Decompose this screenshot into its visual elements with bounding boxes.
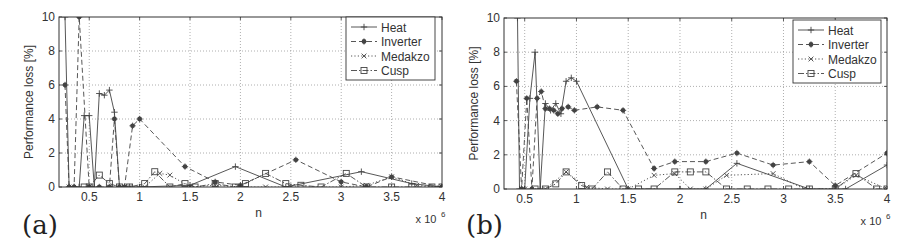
- legend-label: Inverter: [381, 35, 422, 49]
- x-tick-label: 1.5: [182, 190, 199, 204]
- y-tick-label: 8: [48, 44, 55, 58]
- x-tick-label: 2: [677, 192, 684, 206]
- x-multiplier: x 10: [416, 213, 437, 225]
- x-tick-label: 2: [237, 190, 244, 204]
- y-tick-label: 2: [48, 146, 55, 160]
- x-tick-label: 3: [780, 192, 787, 206]
- x-tick-label: 3: [338, 190, 345, 204]
- legend-label: Cusp: [381, 64, 409, 78]
- y-axis-label: Performance loss [%]: [467, 46, 481, 160]
- legend: HeatInverterMedakzoCusp: [793, 20, 881, 83]
- y-tick-label: 2: [493, 148, 500, 162]
- y-tick-label: 4: [493, 114, 500, 128]
- y-tick-label: 8: [493, 45, 500, 59]
- y-tick-label: 10: [42, 10, 56, 24]
- x-tick-label: 3.5: [827, 192, 844, 206]
- y-tick-label: 6: [48, 78, 55, 92]
- x-multiplier-exponent: 6: [441, 210, 446, 219]
- x-tick-label: 0.5: [81, 190, 98, 204]
- y-tick-label: 0: [48, 180, 55, 194]
- x-multiplier: x 10: [861, 215, 882, 227]
- chart-panel-a: 0.511.522.533.540246810nx 106Performance…: [0, 0, 456, 249]
- y-tick-label: 0: [493, 182, 500, 196]
- x-tick-label: 4: [884, 192, 891, 206]
- x-axis-label: n: [700, 208, 707, 222]
- y-tick-label: 6: [493, 79, 500, 93]
- x-multiplier-exponent: 6: [886, 212, 891, 221]
- panel-label-a: (a): [22, 210, 58, 240]
- legend-label: Heat: [828, 24, 854, 38]
- panel-label-b: (b): [466, 210, 503, 240]
- x-tick-label: 1: [573, 192, 580, 206]
- y-tick-label: 10: [487, 11, 501, 25]
- x-tick-label: 1: [136, 190, 143, 204]
- chart-b-svg: 0.511.522.533.540246810nx 106Performance…: [456, 0, 912, 249]
- x-tick-label: 3.5: [383, 190, 400, 204]
- chart-panel-b: 0.511.522.533.540246810nx 106Performance…: [456, 0, 912, 249]
- y-axis-label: Performance loss [%]: [22, 45, 36, 159]
- legend-label: Medakzo: [828, 53, 877, 67]
- x-tick-label: 0.5: [516, 192, 533, 206]
- x-axis-label: n: [255, 206, 262, 220]
- x-tick-label: 4: [439, 190, 446, 204]
- y-tick-label: 4: [48, 112, 55, 126]
- x-tick-label: 1.5: [620, 192, 637, 206]
- legend: HeatInverterMedakzoCusp: [346, 17, 435, 80]
- legend-label: Medakzo: [381, 50, 430, 64]
- chart-a-svg: 0.511.522.533.540246810nx 106Performance…: [0, 0, 456, 249]
- x-tick-label: 2.5: [723, 192, 740, 206]
- legend-label: Inverter: [828, 38, 869, 52]
- x-tick-label: 2.5: [282, 190, 299, 204]
- legend-label: Heat: [381, 21, 407, 35]
- legend-label: Cusp: [828, 67, 856, 81]
